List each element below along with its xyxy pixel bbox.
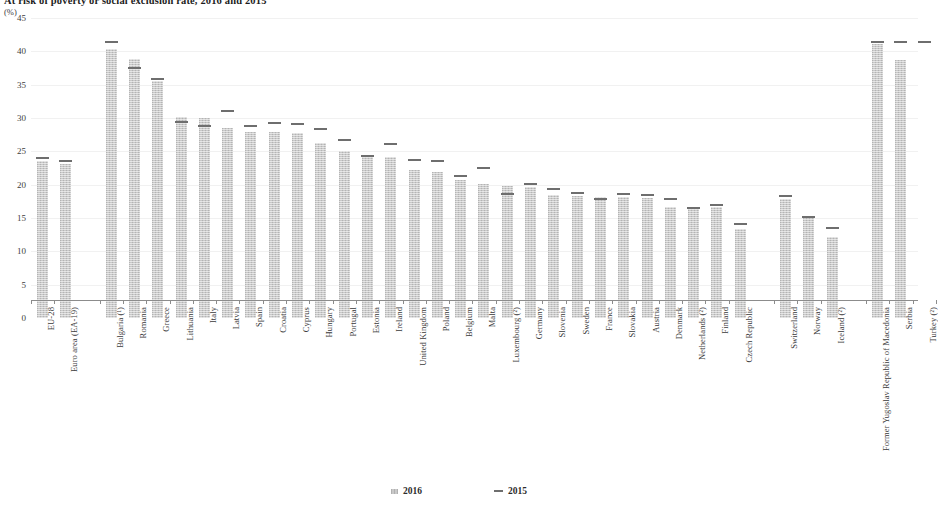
marker-2015[interactable] — [779, 195, 792, 197]
bar-2016[interactable] — [362, 155, 373, 318]
bar-2016[interactable] — [409, 170, 420, 318]
bar-2016[interactable] — [315, 143, 326, 318]
marker-2015[interactable] — [268, 122, 281, 124]
marker-2015[interactable] — [59, 160, 72, 162]
bar-2016[interactable] — [803, 216, 814, 318]
marker-2015[interactable] — [221, 110, 234, 112]
bar-group[interactable] — [572, 18, 583, 318]
bar-2016[interactable] — [339, 151, 350, 318]
bar-group[interactable] — [502, 18, 513, 318]
marker-2015[interactable] — [547, 188, 560, 190]
bar-group[interactable] — [919, 18, 930, 318]
bar-group[interactable] — [595, 18, 606, 318]
bar-group[interactable] — [292, 18, 303, 318]
bar-2016[interactable] — [60, 164, 71, 318]
marker-2015[interactable] — [291, 123, 304, 125]
bar-group[interactable] — [339, 18, 350, 318]
bar-2016[interactable] — [385, 157, 396, 318]
bar-group[interactable] — [827, 18, 838, 318]
marker-2015[interactable] — [826, 227, 839, 229]
marker-2015[interactable] — [198, 125, 211, 127]
bar-2016[interactable] — [827, 237, 838, 318]
marker-2015[interactable] — [314, 128, 327, 130]
marker-2015[interactable] — [361, 155, 374, 157]
marker-2015[interactable] — [524, 183, 537, 185]
marker-2015[interactable] — [408, 159, 421, 161]
bar-group[interactable] — [245, 18, 256, 318]
bar-group[interactable] — [37, 18, 48, 318]
bar-group[interactable] — [688, 18, 699, 318]
bar-2016[interactable] — [37, 161, 48, 318]
bar-2016[interactable] — [106, 49, 117, 318]
bar-group[interactable] — [780, 18, 791, 318]
bar-group[interactable] — [385, 18, 396, 318]
marker-2015[interactable] — [871, 41, 884, 43]
marker-2015[interactable] — [105, 41, 118, 43]
marker-2015[interactable] — [128, 67, 141, 69]
marker-2015[interactable] — [151, 78, 164, 80]
bar-2016[interactable] — [245, 132, 256, 318]
bar-group[interactable] — [152, 18, 163, 318]
legend-item-2016[interactable]: 2016 — [391, 486, 422, 496]
bar-2016[interactable] — [269, 132, 280, 318]
bar-group[interactable] — [735, 18, 746, 318]
marker-2015[interactable] — [477, 167, 490, 169]
bar-2016[interactable] — [176, 117, 187, 318]
bar-group[interactable] — [665, 18, 676, 318]
marker-2015[interactable] — [894, 41, 907, 43]
marker-2015[interactable] — [338, 139, 351, 141]
bar-group[interactable] — [315, 18, 326, 318]
marker-2015[interactable] — [641, 194, 654, 196]
bar-2016[interactable] — [129, 59, 140, 318]
bar-2016[interactable] — [199, 118, 210, 318]
marker-2015[interactable] — [617, 193, 630, 195]
bar-group[interactable] — [409, 18, 420, 318]
bar-2016[interactable] — [895, 60, 906, 318]
bar-group[interactable] — [106, 18, 117, 318]
marker-2015[interactable] — [244, 125, 257, 127]
bar-2016[interactable] — [222, 128, 233, 318]
bar-2016[interactable] — [711, 207, 722, 318]
bar-group[interactable] — [269, 18, 280, 318]
marker-2015[interactable] — [734, 223, 747, 225]
bar-2016[interactable] — [455, 180, 466, 318]
bar-group[interactable] — [548, 18, 559, 318]
bar-2016[interactable] — [872, 44, 883, 318]
bar-2016[interactable] — [292, 133, 303, 318]
bar-2016[interactable] — [478, 184, 489, 318]
marker-2015[interactable] — [175, 121, 188, 123]
bar-2016[interactable] — [152, 81, 163, 318]
legend-item-2015[interactable]: 2015 — [494, 486, 527, 496]
marker-2015[interactable] — [594, 198, 607, 200]
bar-group[interactable] — [618, 18, 629, 318]
marker-2015[interactable] — [454, 175, 467, 177]
bar-group[interactable] — [176, 18, 187, 318]
marker-2015[interactable] — [687, 207, 700, 209]
marker-2015[interactable] — [664, 198, 677, 200]
bar-2016[interactable] — [525, 187, 536, 318]
bar-2016[interactable] — [665, 207, 676, 318]
bar-2016[interactable] — [502, 186, 513, 318]
marker-2015[interactable] — [384, 143, 397, 145]
bar-group[interactable] — [432, 18, 443, 318]
bar-2016[interactable] — [432, 172, 443, 318]
bar-group[interactable] — [455, 18, 466, 318]
bar-group[interactable] — [362, 18, 373, 318]
bar-group[interactable] — [60, 18, 71, 318]
bar-group[interactable] — [803, 18, 814, 318]
bar-group[interactable] — [642, 18, 653, 318]
marker-2015[interactable] — [36, 157, 49, 159]
bar-group[interactable] — [129, 18, 140, 318]
marker-2015[interactable] — [571, 192, 584, 194]
marker-2015[interactable] — [802, 216, 815, 218]
bar-group[interactable] — [872, 18, 883, 318]
bar-group[interactable] — [895, 18, 906, 318]
bar-2016[interactable] — [735, 229, 746, 318]
marker-2015[interactable] — [431, 160, 444, 162]
marker-2015[interactable] — [710, 204, 723, 206]
bar-group[interactable] — [711, 18, 722, 318]
bar-2016[interactable] — [688, 207, 699, 318]
marker-2015[interactable] — [918, 41, 931, 43]
marker-2015[interactable] — [501, 193, 514, 195]
bar-group[interactable] — [478, 18, 489, 318]
